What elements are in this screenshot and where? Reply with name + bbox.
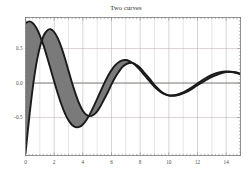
data-layer <box>26 21 241 153</box>
x-axis-tick-label: 2 <box>47 159 61 165</box>
y-axis-tick-label: -0.5 <box>7 114 23 120</box>
chart-figure: Two curves -0.50.00.502468101214 <box>0 0 252 175</box>
y-axis-tick-label: 0.0 <box>7 80 23 86</box>
x-axis-tick-label: 12 <box>191 159 205 165</box>
y-axis-tick-label: 0.5 <box>7 45 23 51</box>
x-axis-tick-label: 10 <box>162 159 176 165</box>
x-axis-tick-label: 6 <box>105 159 119 165</box>
x-axis-tick-label: 8 <box>133 159 147 165</box>
fill-between-region <box>26 21 241 153</box>
x-axis-tick-label: 4 <box>76 159 90 165</box>
x-axis-tick-label: 0 <box>19 159 33 165</box>
x-axis-tick-label: 14 <box>219 159 233 165</box>
plot-canvas <box>0 0 252 175</box>
